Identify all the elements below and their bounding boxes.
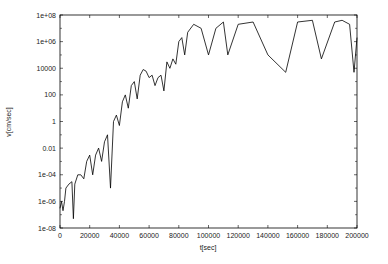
data-line <box>60 20 357 218</box>
y-tick-label: 1 <box>52 118 56 125</box>
y-tick-label: 100 <box>44 91 56 98</box>
x-tick-label: 160000 <box>286 232 309 239</box>
x-axis: 0200004000060000800001000001200001400001… <box>58 15 369 239</box>
x-tick-label: 0 <box>58 232 62 239</box>
x-tick-label: 120000 <box>227 232 250 239</box>
x-axis-label: t[sec] <box>200 244 217 252</box>
plot-frame <box>60 15 357 228</box>
y-tick-label: 0.01 <box>42 145 56 152</box>
x-tick-label: 140000 <box>256 232 279 239</box>
x-tick-label: 100000 <box>197 232 220 239</box>
y-tick-label: 1e-06 <box>38 198 56 205</box>
x-tick-label: 40000 <box>110 232 130 239</box>
x-tick-label: 20000 <box>80 232 100 239</box>
x-tick-label: 180000 <box>316 232 339 239</box>
y-tick-label: 1e-08 <box>38 225 56 232</box>
y-tick-label: 1e+06 <box>36 38 56 45</box>
chart: 1e-081e-061e-040.011100100001e+061e+08 0… <box>0 0 388 264</box>
x-tick-label: 80000 <box>169 232 189 239</box>
x-tick-label: 60000 <box>139 232 159 239</box>
y-tick-label: 10000 <box>37 65 57 72</box>
y-tick-label: 1e-04 <box>38 171 56 178</box>
x-tick-label: 200000 <box>345 232 368 239</box>
y-axis: 1e-081e-061e-040.011100100001e+061e+08 <box>36 12 357 232</box>
y-tick-label: 1e+08 <box>36 12 56 19</box>
y-axis-label: v[cm/sec] <box>5 107 13 137</box>
